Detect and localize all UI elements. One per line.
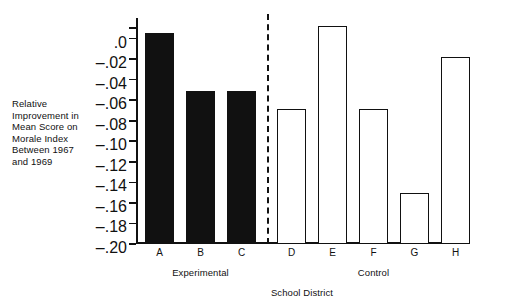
y-axis-tick-label: –.04 bbox=[87, 75, 127, 93]
bar-b bbox=[186, 91, 215, 244]
y-axis-tick bbox=[129, 223, 136, 225]
y-axis-tick-label: –.10 bbox=[87, 136, 127, 154]
y-axis-tick bbox=[129, 99, 136, 101]
bar-a bbox=[145, 33, 174, 244]
x-axis-tick-label-h: H bbox=[444, 248, 468, 258]
y-axis-tick-label: –.06 bbox=[87, 95, 127, 113]
y-axis-tick-label: –.16 bbox=[87, 198, 127, 216]
y-axis-line bbox=[136, 18, 138, 244]
plot-area: .0–.02–.04–.06–.08–.10–.12–.14–.16–.18–.… bbox=[136, 18, 468, 244]
x-axis-tick-label-a: A bbox=[148, 248, 172, 258]
x-axis-tick-label-e: E bbox=[321, 248, 345, 258]
y-axis-tick bbox=[129, 79, 136, 81]
x-axis-title: School District bbox=[136, 288, 468, 298]
y-axis-tick bbox=[129, 120, 136, 122]
x-axis-tick-label-d: D bbox=[280, 248, 304, 258]
y-axis-tick-label: –.20 bbox=[87, 239, 127, 257]
y-axis-tick bbox=[129, 58, 136, 60]
y-axis-tick bbox=[129, 161, 136, 163]
y-axis-tick bbox=[129, 182, 136, 184]
group-label-experimental: Experimental bbox=[136, 268, 266, 278]
bar-c bbox=[227, 91, 256, 244]
y-axis-tick bbox=[129, 27, 136, 29]
x-axis-tick-label-c: C bbox=[230, 248, 254, 258]
y-axis-tick-label: –.18 bbox=[87, 218, 127, 236]
bar-h bbox=[441, 57, 470, 244]
y-axis-tick bbox=[129, 140, 136, 142]
bar-g bbox=[400, 193, 429, 244]
y-axis-tick bbox=[129, 202, 136, 204]
y-axis-tick-label: .0 bbox=[87, 34, 127, 52]
chart-figure: Relative Improvement in Mean Score on Mo… bbox=[0, 0, 510, 302]
group-divider-line bbox=[267, 14, 269, 244]
x-axis-tick-label-g: G bbox=[403, 248, 427, 258]
y-axis-tick-label: –.14 bbox=[87, 177, 127, 195]
y-axis-tick bbox=[129, 38, 136, 40]
bar-d bbox=[277, 109, 306, 244]
y-axis-tick-label: –.02 bbox=[87, 54, 127, 72]
group-label-control: Control bbox=[309, 268, 439, 278]
x-axis-tick-label-b: B bbox=[189, 248, 213, 258]
x-axis-tick-label-f: F bbox=[362, 248, 386, 258]
y-axis-tick-label: –.08 bbox=[87, 116, 127, 134]
y-axis-tick-label: –.12 bbox=[87, 157, 127, 175]
bar-f bbox=[359, 109, 388, 244]
y-axis-tick bbox=[129, 243, 136, 245]
bar-e bbox=[318, 26, 347, 244]
